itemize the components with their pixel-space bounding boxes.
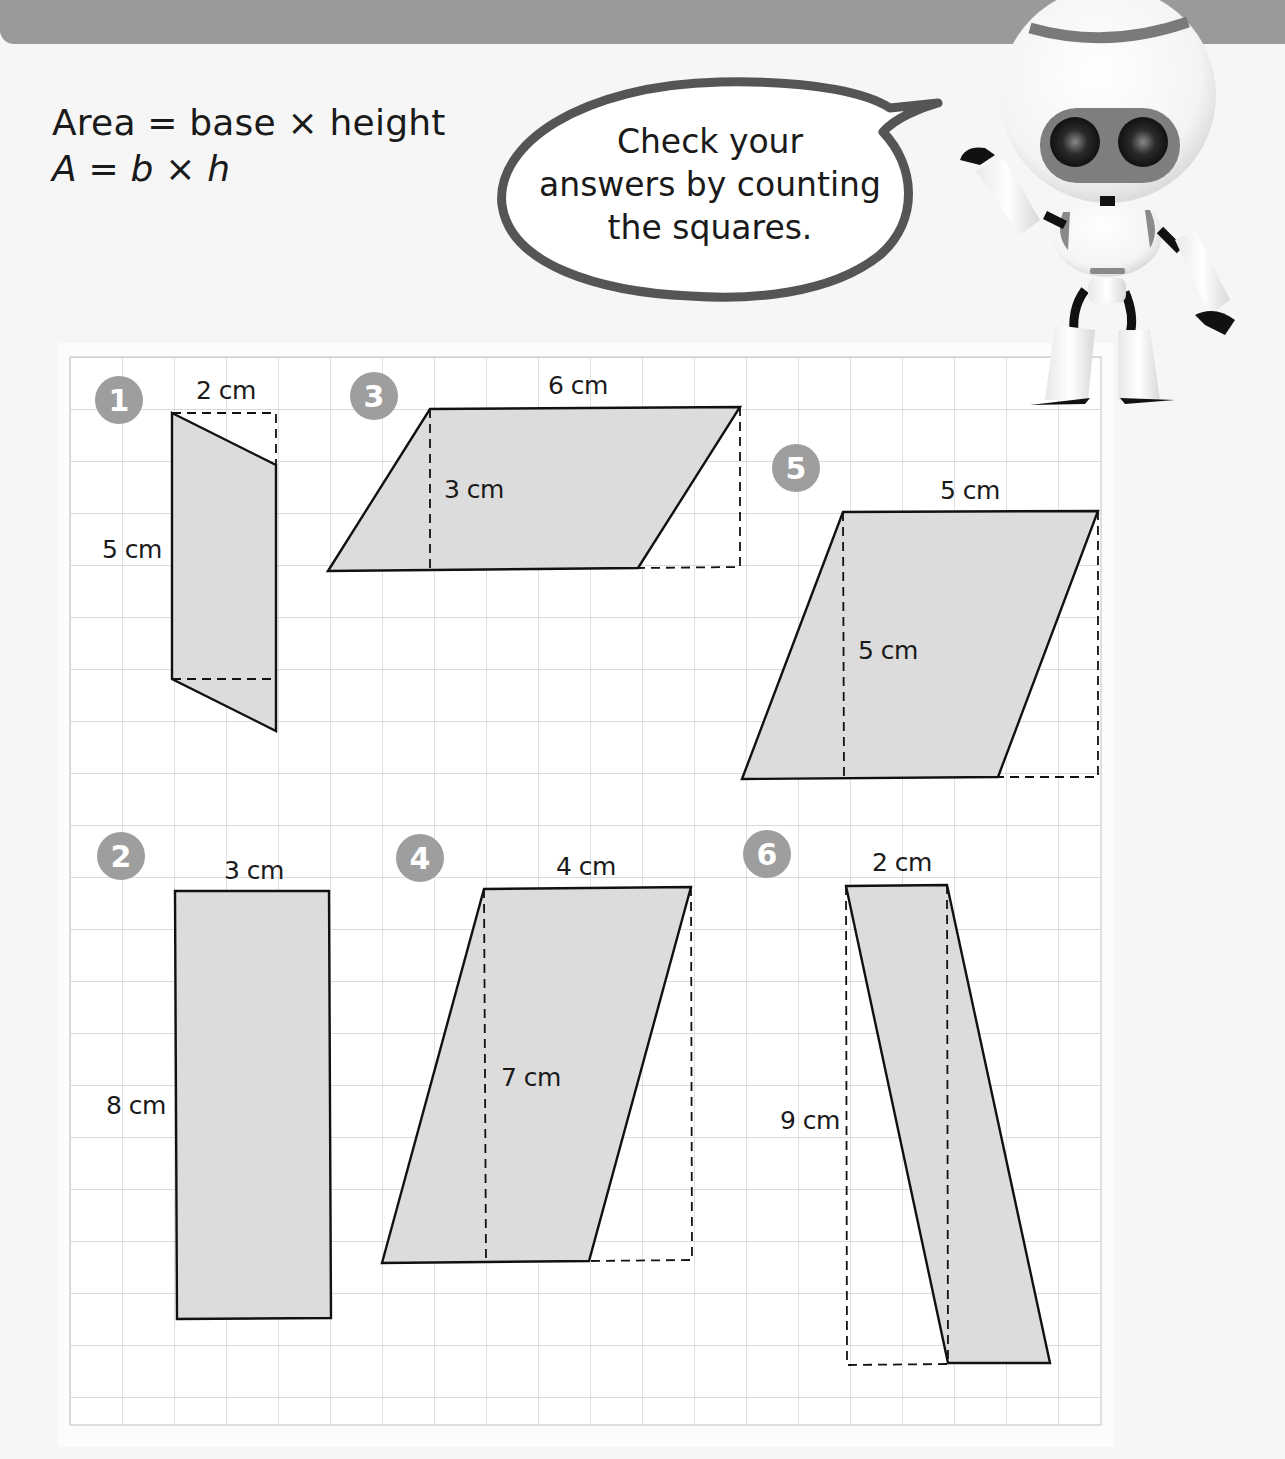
problem-2-badge: 2 [97, 832, 145, 880]
problem-3-base-label: 6 cm [548, 371, 608, 400]
problem-1-badge: 1 [95, 376, 143, 424]
problem-5-base-label: 5 cm [940, 476, 1000, 505]
problem-4-badge: 4 [396, 834, 444, 882]
problem-6-badge: 6 [743, 830, 791, 878]
problem-2-base-label: 3 cm [224, 856, 284, 885]
problem-6-height-label: 9 cm [780, 1106, 840, 1135]
problem-3-badge: 3 [350, 372, 398, 420]
problem-4-height-label: 7 cm [501, 1063, 561, 1092]
shape-1-parallelogram [172, 413, 276, 731]
problem-1-height-label: 5 cm [102, 535, 162, 564]
problem-4-base-label: 4 cm [556, 852, 616, 881]
problem-6-base-label: 2 cm [872, 848, 932, 877]
robot-mascot-icon [950, 0, 1285, 420]
problem-2-height-label: 8 cm [106, 1091, 166, 1120]
shape-2-rectangle [175, 891, 331, 1319]
problem-5-height-label: 5 cm [858, 636, 918, 665]
problem-1-base-label: 2 cm [196, 376, 256, 405]
problem-3-height-label: 3 cm [444, 475, 504, 504]
problem-5-badge: 5 [772, 444, 820, 492]
